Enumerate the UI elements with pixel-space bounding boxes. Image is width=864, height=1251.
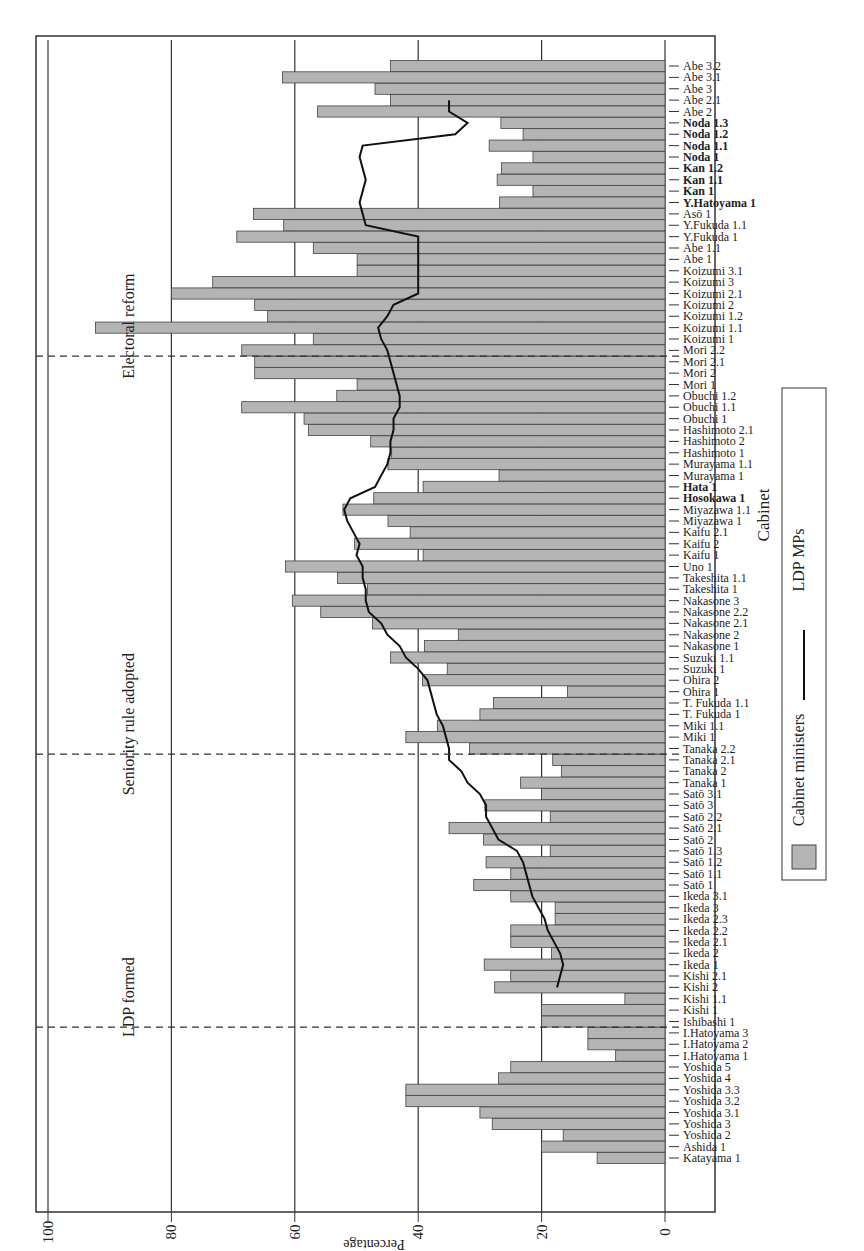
- bar-cabinet-ministers: [313, 242, 665, 253]
- bar-cabinet-ministers: [253, 208, 665, 219]
- bar-cabinet-ministers: [282, 72, 665, 83]
- bar-cabinet-ministers: [492, 1118, 665, 1129]
- chart-page: 020406080100Katayama 1Ashida 1Yoshida 2Y…: [0, 0, 864, 1251]
- bar-cabinet-ministers: [501, 163, 665, 174]
- legend-swatch-bars: [792, 845, 816, 869]
- bar-cabinet-ministers: [242, 345, 665, 356]
- bar-cabinet-ministers: [255, 356, 665, 367]
- bar-cabinet-ministers: [292, 595, 665, 606]
- y-tick-label: 60: [287, 1225, 303, 1240]
- bar-cabinet-ministers: [406, 1084, 665, 1095]
- bar-cabinet-ministers: [304, 413, 665, 424]
- bar-cabinet-ministers: [563, 1130, 665, 1141]
- bar-cabinet-ministers: [484, 834, 665, 845]
- bar-cabinet-ministers: [555, 914, 665, 925]
- bar-cabinet-ministers: [373, 618, 665, 629]
- bar-cabinet-ministers: [542, 1141, 665, 1152]
- bar-cabinet-ministers: [484, 959, 665, 970]
- bar-cabinet-ministers: [237, 231, 665, 242]
- bar-cabinet-ministers: [474, 879, 665, 890]
- y-tick-label: 20: [534, 1225, 550, 1240]
- bar-cabinet-ministers: [343, 504, 665, 515]
- bar-cabinet-ministers: [500, 197, 665, 208]
- annotation-label: Electoral reform: [120, 273, 137, 379]
- bar-cabinet-ministers: [498, 1073, 665, 1084]
- bar-cabinet-ministers: [625, 993, 665, 1004]
- bar-cabinet-ministers: [410, 527, 665, 538]
- bar-cabinet-ministers: [371, 436, 665, 447]
- bar-cabinet-ministers: [388, 459, 665, 470]
- bar-cabinet-ministers: [597, 1152, 665, 1163]
- bar-cabinet-ministers: [318, 106, 665, 117]
- bar-cabinet-ministers: [449, 823, 665, 834]
- bar-cabinet-ministers: [511, 936, 665, 947]
- y-tick-label: 0: [657, 1228, 673, 1236]
- bar-cabinet-ministers: [588, 1039, 665, 1050]
- bar-cabinet-ministers: [568, 686, 665, 697]
- bar-cabinet-ministers: [511, 970, 665, 981]
- bar-cabinet-ministers: [390, 95, 665, 106]
- bar-cabinet-ministers: [499, 470, 665, 481]
- bar-cabinet-ministers: [521, 777, 665, 788]
- bar-cabinet-ministers: [390, 652, 665, 663]
- bar-cabinet-ministers: [561, 766, 665, 777]
- bar-cabinet-ministers: [286, 561, 665, 572]
- bar-cabinet-ministers: [458, 629, 665, 640]
- annotation-label: LDP formed: [120, 957, 137, 1037]
- bar-cabinet-ministers: [551, 948, 665, 959]
- bar-cabinet-ministers: [588, 1027, 665, 1038]
- bar-cabinet-ministers: [511, 925, 665, 936]
- bar-cabinet-ministers: [480, 1107, 665, 1118]
- bar-cabinet-ministers: [555, 902, 665, 913]
- bar-cabinet-ministers: [308, 424, 665, 435]
- bar-cabinet-ministers: [374, 493, 665, 504]
- bar-cabinet-ministers: [495, 982, 665, 993]
- bar-cabinet-ministers: [255, 299, 665, 310]
- bar-cabinet-ministers: [542, 1016, 665, 1027]
- bar-cabinet-ministers: [423, 481, 665, 492]
- bar-cabinet-ministers: [423, 550, 665, 561]
- bar-cabinet-ministers: [337, 390, 665, 401]
- x-tick-label: Abe 3.2: [683, 59, 721, 73]
- bar-cabinet-ministers: [213, 277, 665, 288]
- bar-cabinet-ministers: [511, 1061, 665, 1072]
- bar-cabinet-ministers: [423, 675, 665, 686]
- x-axis-title: Cabinet: [754, 488, 773, 541]
- bar-cabinet-ministers: [489, 140, 665, 151]
- bar-cabinet-ministers: [390, 60, 665, 71]
- bar-cabinet-ministers: [357, 379, 665, 390]
- bar-cabinet-ministers: [357, 265, 665, 276]
- bar-cabinet-ministers: [486, 857, 665, 868]
- bar-cabinet-ministers: [542, 1005, 665, 1016]
- bar-cabinet-ministers: [542, 788, 665, 799]
- legend-label-ldp-mps: LDP MPs: [790, 529, 807, 592]
- bar-cabinet-ministers: [242, 402, 665, 413]
- bar-cabinet-ministers: [469, 743, 665, 754]
- bar-cabinet-ministers: [406, 1096, 665, 1107]
- annotation-label: Seniority rule adopted: [120, 653, 138, 795]
- bar-cabinet-ministers: [511, 868, 665, 879]
- legend-label-cabinet-ministers: Cabinet ministers: [790, 714, 807, 826]
- bar-cabinet-ministers: [485, 800, 665, 811]
- bar-cabinet-ministers: [533, 151, 665, 162]
- bar-cabinet-ministers: [616, 1050, 665, 1061]
- bar-cabinet-ministers: [355, 538, 665, 549]
- y-tick-label: 40: [410, 1225, 426, 1240]
- y-tick-label: 80: [163, 1225, 179, 1240]
- bar-cabinet-ministers: [357, 254, 665, 265]
- bar-cabinet-ministers: [255, 368, 665, 379]
- bar-cabinet-ministers: [337, 572, 665, 583]
- bar-cabinet-ministers: [392, 447, 665, 458]
- bar-cabinet-ministers: [268, 311, 665, 322]
- bar-cabinet-ministers: [497, 174, 665, 185]
- y-axis-title: Percentage: [343, 1237, 404, 1251]
- bar-cabinet-ministers: [313, 333, 665, 344]
- bar-cabinet-ministers: [501, 117, 665, 128]
- bar-cabinet-ministers: [480, 709, 665, 720]
- bar-line-chart: 020406080100Katayama 1Ashida 1Yoshida 2Y…: [0, 0, 864, 1251]
- bar-cabinet-ministers: [424, 641, 665, 652]
- bar-cabinet-ministers: [523, 129, 665, 140]
- bar-cabinet-ministers: [493, 697, 665, 708]
- y-tick-label: 100: [40, 1221, 56, 1244]
- bar-cabinet-ministers: [533, 186, 665, 197]
